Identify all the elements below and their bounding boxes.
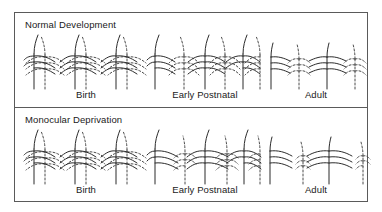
stage-normal-birth: Birth: [25, 33, 147, 108]
stage-label-md-early-postnatal: Early Postnatal: [147, 184, 263, 196]
stage-md-birth: Birth: [25, 128, 147, 203]
solid-arbor-group: [147, 35, 260, 89]
stage-md-early-postnatal: Early Postnatal: [147, 128, 263, 203]
solid-arbor-group: [24, 130, 137, 184]
stage-label-normal-adult: Adult: [263, 89, 369, 101]
arbor-art-normal-birth: [25, 33, 147, 89]
stage-label-normal-birth: Birth: [25, 89, 147, 101]
stage-label-md-birth: Birth: [25, 184, 147, 196]
stage-row-monocular-deprivation: Birth: [15, 128, 367, 203]
dashed-arbor-group: [174, 136, 260, 184]
arbor-art-normal-early-postnatal: [147, 33, 263, 89]
panel-normal-development: Normal Development: [15, 13, 367, 108]
stage-normal-early-postnatal: Early Postnatal: [147, 33, 263, 108]
panel-monocular-deprivation: Monocular Deprivation: [15, 108, 367, 203]
figure-frame: Normal Development: [14, 12, 368, 202]
arbor-art-md-birth: [25, 128, 147, 184]
panel-title-monocular-deprivation: Monocular Deprivation: [25, 114, 122, 125]
arbor-art-md-early-postnatal: [147, 128, 263, 184]
arbor-art-md-adult: [263, 128, 369, 184]
solid-arbor-group: [271, 43, 346, 89]
figure-root: Normal Development: [0, 0, 382, 212]
panel-title-normal-development: Normal Development: [25, 19, 116, 30]
stage-normal-adult: Adult: [263, 33, 369, 108]
solid-arbor-group: [270, 137, 352, 184]
stage-md-adult: Adult: [263, 128, 369, 203]
stage-label-md-adult: Adult: [263, 184, 369, 196]
solid-arbor-group: [24, 35, 137, 89]
stage-label-normal-early-postnatal: Early Postnatal: [147, 89, 263, 101]
solid-arbor-group: [147, 130, 261, 184]
arbor-art-normal-adult: [263, 33, 369, 89]
stage-row-normal-development: Birth: [15, 33, 367, 108]
